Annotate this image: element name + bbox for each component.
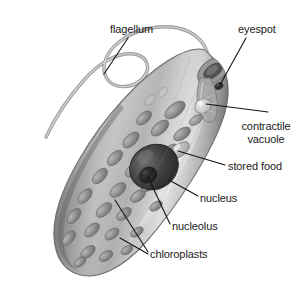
label-nucleolus: nucleolus xyxy=(172,220,218,233)
leader-eyespot xyxy=(220,38,246,85)
label-nucleus: nucleus xyxy=(200,192,237,205)
label-contractile-vacuole: contractile vacuole xyxy=(228,120,304,145)
label-flagellum: flagellum xyxy=(110,23,153,36)
label-eyespot: eyespot xyxy=(238,23,276,36)
label-stored-food: stored food xyxy=(228,160,282,173)
euglena-diagram: flagellum eyespot contractile vacuole st… xyxy=(0,0,305,297)
label-chloroplasts: chloroplasts xyxy=(150,248,208,261)
